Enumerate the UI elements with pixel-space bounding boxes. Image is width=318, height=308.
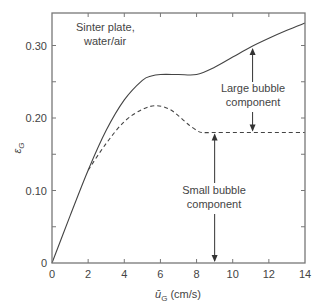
annotation-large-line2: component (226, 96, 280, 108)
x-tick-label: 4 (121, 268, 127, 280)
arrowhead-icon (212, 255, 218, 262)
y-axis-label: εG (11, 142, 26, 153)
y-tick-label: 0.20 (26, 112, 47, 124)
annotation-sinter-line1: Sinter plate, (76, 21, 135, 33)
x-tick-label: 10 (227, 268, 239, 280)
plot-frame (52, 13, 305, 263)
annotation-sinter-line2: water/air (83, 35, 127, 47)
annotation-small-line1: Small bubble (182, 184, 246, 196)
x-tick-label: 2 (85, 268, 91, 280)
axes: 0246810121400.100.200.30 (26, 13, 312, 280)
x-tick-label: 12 (263, 268, 275, 280)
x-axis-label-unit: (cm/s) (167, 288, 201, 300)
y-tick-label: 0 (41, 257, 47, 269)
arrowhead-icon (250, 125, 256, 132)
y-axis-label-sub: G (17, 142, 26, 148)
total-holdup-curve (52, 23, 305, 263)
x-tick-label: 14 (299, 268, 311, 280)
y-tick-label: 0.10 (26, 185, 47, 197)
plot-area (52, 23, 305, 263)
x-axis-label: ūG (cm/s) (155, 288, 201, 303)
annotation-small-line2: component (187, 198, 241, 210)
chart: 0246810121400.100.200.30 Sinter plate, w… (0, 0, 318, 308)
x-tick-label: 8 (194, 268, 200, 280)
arrowhead-icon (250, 48, 256, 55)
small-bubble-curve (88, 106, 305, 171)
y-tick-label: 0.30 (26, 40, 47, 52)
arrowhead-icon (212, 134, 218, 141)
x-tick-label: 6 (157, 268, 163, 280)
x-tick-label: 0 (49, 268, 55, 280)
annotation-large-line1: Large bubble (221, 82, 285, 94)
